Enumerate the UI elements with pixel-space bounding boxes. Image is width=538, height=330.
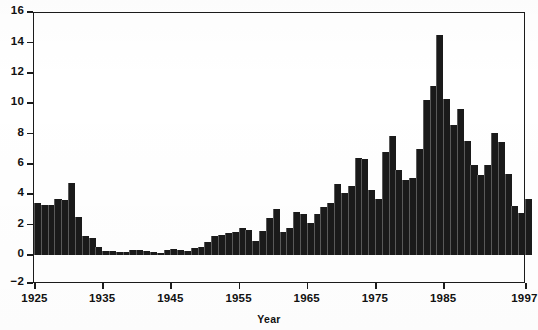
x-tick-mark [239, 283, 241, 289]
x-tick-mark [443, 283, 445, 289]
x-tick-mark [102, 283, 104, 289]
x-tick-mark [34, 283, 36, 289]
x-tick-label: 1945 [157, 292, 183, 305]
x-tick-mark [307, 283, 309, 289]
x-tick-mark [525, 283, 527, 289]
x-tick-label: 1925 [21, 292, 47, 305]
x-tick-label: 1965 [294, 292, 320, 305]
x-tick-label: 1955 [225, 292, 251, 305]
x-axis: 19251935194519551965197519851997 [0, 0, 538, 330]
x-tick-mark [170, 283, 172, 289]
x-tick-mark [375, 283, 377, 289]
x-tick-label: 1975 [362, 292, 388, 305]
x-axis-title: Year [0, 313, 538, 325]
x-tick-label: 1997 [511, 292, 537, 305]
x-tick-label: 1935 [89, 292, 115, 305]
x-tick-label: 1985 [430, 292, 456, 305]
bar-chart-figure: 1614121086420−2 192519351945195519651975… [0, 0, 538, 330]
